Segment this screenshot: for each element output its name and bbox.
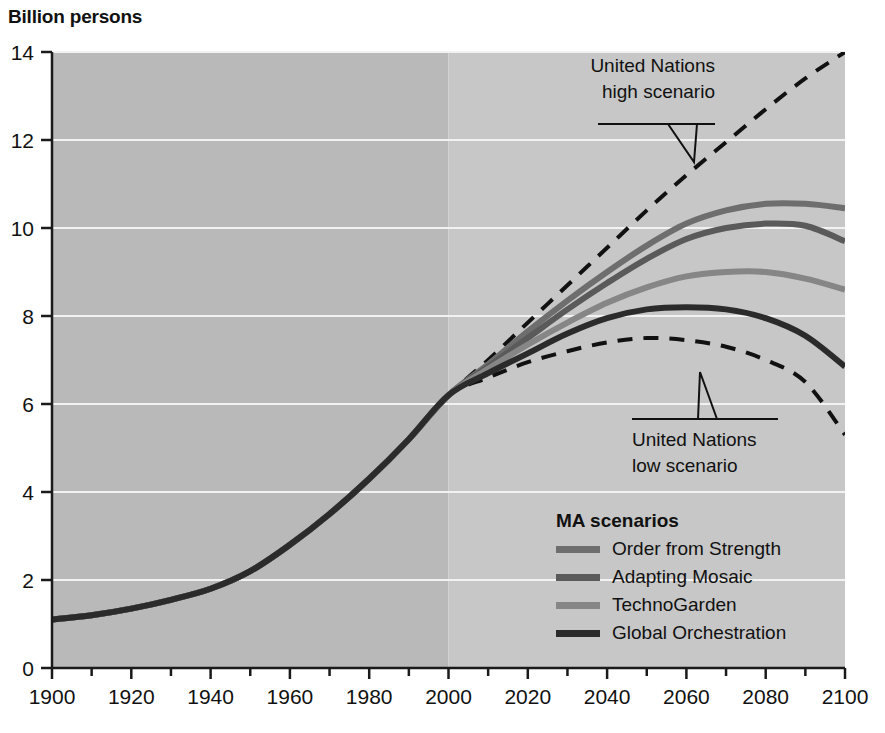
x-tick-label: 2080 bbox=[742, 685, 789, 708]
chart-canvas: 02468101214 1900192019401960198020002020… bbox=[0, 0, 885, 733]
x-tick-label: 1940 bbox=[187, 685, 234, 708]
annotation-un-low-line1: United Nations bbox=[632, 429, 757, 450]
legend-swatch bbox=[556, 574, 600, 581]
y-tick-label: 4 bbox=[22, 481, 34, 504]
legend-title: MA scenarios bbox=[556, 510, 679, 531]
population-projection-chart: Billion persons 02468101214 190019201940… bbox=[0, 0, 885, 733]
x-tick-label: 2000 bbox=[425, 685, 472, 708]
legend-label: Order from Strength bbox=[612, 538, 781, 559]
y-tick-label: 0 bbox=[22, 657, 34, 680]
y-axis-tick-labels: 02468101214 bbox=[11, 41, 35, 680]
x-axis-tick-labels: 1900192019401960198020002020204020602080… bbox=[29, 685, 869, 708]
x-tick-label: 1900 bbox=[29, 685, 76, 708]
legend-swatch bbox=[556, 630, 600, 637]
annotation-un-low-line2: low scenario bbox=[632, 455, 738, 476]
x-tick-label: 2040 bbox=[584, 685, 631, 708]
x-tick-label: 1920 bbox=[108, 685, 155, 708]
y-tick-label: 2 bbox=[22, 569, 34, 592]
legend-label: TechnoGarden bbox=[612, 594, 737, 615]
y-tick-label: 8 bbox=[22, 305, 34, 328]
x-tick-label: 2060 bbox=[663, 685, 710, 708]
x-tick-label: 1960 bbox=[267, 685, 314, 708]
annotation-un-high-line2: high scenario bbox=[602, 81, 715, 102]
y-axis-ticks bbox=[41, 52, 52, 668]
y-tick-label: 12 bbox=[11, 129, 34, 152]
legend-swatch bbox=[556, 546, 600, 553]
legend-label: Global Orchestration bbox=[612, 622, 786, 643]
legend-swatch bbox=[556, 602, 600, 609]
annotation-un-high-line1: United Nations bbox=[590, 55, 715, 76]
plot-background-historical bbox=[52, 52, 449, 668]
y-tick-label: 10 bbox=[11, 217, 34, 240]
y-tick-label: 14 bbox=[11, 41, 35, 64]
x-tick-label: 2020 bbox=[504, 685, 551, 708]
x-axis-ticks bbox=[52, 668, 845, 679]
x-tick-label: 2100 bbox=[822, 685, 869, 708]
x-tick-label: 1980 bbox=[346, 685, 393, 708]
legend-label: Adapting Mosaic bbox=[612, 566, 752, 587]
y-tick-label: 6 bbox=[22, 393, 34, 416]
